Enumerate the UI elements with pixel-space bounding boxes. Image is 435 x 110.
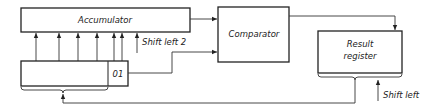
accumulator-block: Accumulator xyxy=(21,8,190,32)
shift-left-2-control: Shift left 2 xyxy=(137,33,186,53)
block-diagram: Accumulator Shift left 2 01 Comparator R… xyxy=(0,0,435,110)
result-register-block: Result register xyxy=(318,31,402,73)
shift-left-control: Shift left xyxy=(378,80,420,101)
cell-to-comparator-line xyxy=(128,52,217,73)
parallel-transfer-arrows xyxy=(36,33,122,61)
input-register-cell-label: 01 xyxy=(113,69,124,79)
shift-left-2-label: Shift left 2 xyxy=(142,37,186,47)
accumulator-label: Accumulator xyxy=(77,15,132,25)
result-register-label-line2: register xyxy=(344,51,377,61)
input-register-block: 01 xyxy=(21,61,128,86)
comparator-block: Comparator xyxy=(218,7,289,62)
comparator-to-result-line xyxy=(289,16,395,30)
result-register-label-line1: Result xyxy=(347,39,374,49)
input-register-brace xyxy=(21,87,108,93)
result-register-brace xyxy=(318,74,402,80)
comparator-label: Comparator xyxy=(229,29,280,39)
shift-left-label: Shift left xyxy=(383,90,420,100)
